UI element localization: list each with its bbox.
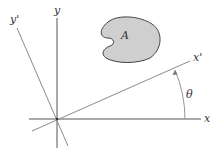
theta-arrowhead-icon xyxy=(173,70,178,75)
diagram-canvas: A y x y' x' θ xyxy=(0,0,218,155)
theta-label: θ xyxy=(186,88,193,101)
x-axis-label: x xyxy=(204,112,211,125)
x-prime-axis-label: x' xyxy=(193,51,202,64)
area-a-shape xyxy=(101,17,160,63)
x-prime-axis xyxy=(32,61,190,131)
y-axis-label: y xyxy=(53,4,61,17)
origin-point xyxy=(56,118,58,120)
theta-arc xyxy=(175,70,185,119)
y-prime-axis-label: y' xyxy=(9,13,19,26)
area-a-label: A xyxy=(120,29,129,42)
y-prime-axis xyxy=(17,28,68,146)
